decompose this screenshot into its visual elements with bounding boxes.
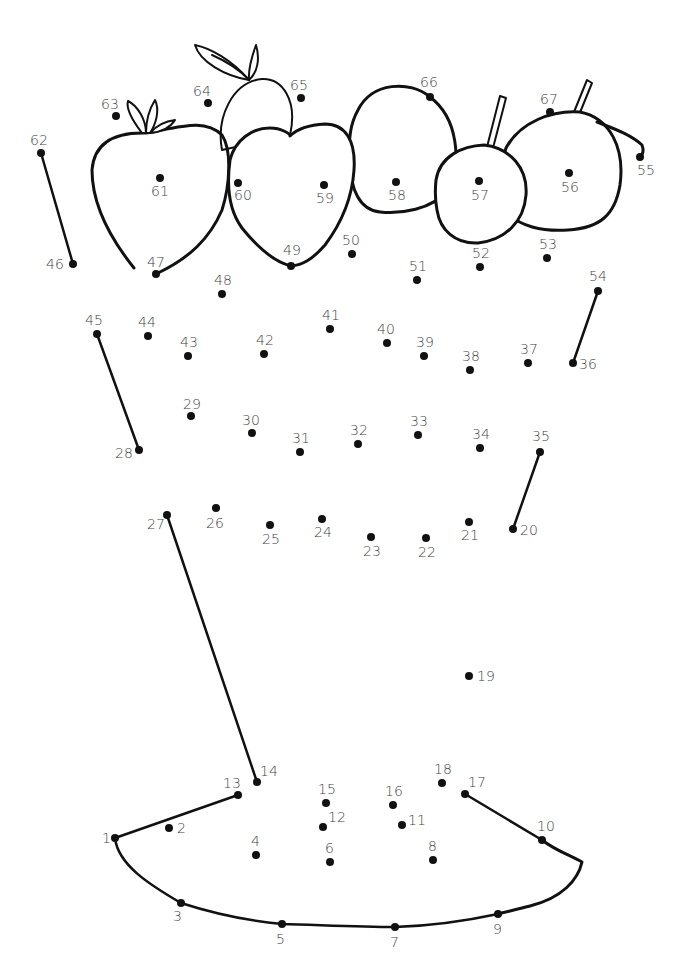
dot-23[interactable]: 23 <box>363 533 381 559</box>
dot-24[interactable]: 24 <box>314 515 332 540</box>
dot-marker[interactable] <box>475 177 483 185</box>
dot-marker[interactable] <box>320 181 328 189</box>
dot-6[interactable]: 6 <box>325 840 334 866</box>
dot-marker[interactable] <box>546 108 554 116</box>
dot-40[interactable]: 40 <box>377 321 395 347</box>
dot-marker[interactable] <box>536 448 544 456</box>
dot-marker[interactable] <box>319 823 327 831</box>
dot-marker[interactable] <box>538 836 546 844</box>
dot-marker[interactable] <box>326 325 334 333</box>
dot-marker[interactable] <box>260 350 268 358</box>
dot-4[interactable]: 4 <box>251 833 260 859</box>
dot-marker[interactable] <box>392 178 400 186</box>
dot-44[interactable]: 44 <box>138 314 156 340</box>
dot-43[interactable]: 43 <box>180 334 198 360</box>
dot-9[interactable]: 9 <box>493 910 502 937</box>
dot-50[interactable]: 50 <box>342 232 360 258</box>
dot-62[interactable]: 62 <box>30 132 48 157</box>
dot-marker[interactable] <box>565 169 573 177</box>
dot-38[interactable]: 38 <box>462 348 480 374</box>
dot-marker[interactable] <box>466 366 474 374</box>
dot-15[interactable]: 15 <box>318 781 336 807</box>
dot-11[interactable]: 11 <box>398 812 426 829</box>
dot-marker[interactable] <box>594 287 602 295</box>
dot-marker[interactable] <box>348 250 356 258</box>
dot-22[interactable]: 22 <box>418 534 436 560</box>
dot-marker[interactable] <box>204 99 212 107</box>
dot-marker[interactable] <box>253 778 261 786</box>
dot-marker[interactable] <box>234 179 242 187</box>
dot-28[interactable]: 28 <box>115 445 143 461</box>
dot-marker[interactable] <box>152 270 160 278</box>
dot-marker[interactable] <box>187 412 195 420</box>
dot-19[interactable]: 19 <box>465 668 495 684</box>
dot-marker[interactable] <box>296 448 304 456</box>
dot-30[interactable]: 30 <box>242 412 260 437</box>
dot-marker[interactable] <box>287 262 295 270</box>
dot-48[interactable]: 48 <box>214 272 232 298</box>
dot-marker[interactable] <box>135 446 143 454</box>
dot-54[interactable]: 54 <box>589 268 607 295</box>
dot-marker[interactable] <box>318 515 326 523</box>
dot-31[interactable]: 31 <box>292 430 310 456</box>
dot-45[interactable]: 45 <box>85 312 103 338</box>
dot-marker[interactable] <box>367 533 375 541</box>
dot-marker[interactable] <box>476 444 484 452</box>
dot-marker[interactable] <box>389 801 397 809</box>
dot-marker[interactable] <box>465 518 473 526</box>
dot-12[interactable]: 12 <box>319 809 346 831</box>
dot-27[interactable]: 27 <box>147 511 171 532</box>
dot-10[interactable]: 10 <box>537 818 555 844</box>
dot-marker[interactable] <box>156 174 164 182</box>
dot-marker[interactable] <box>509 525 517 533</box>
dot-marker[interactable] <box>422 534 430 542</box>
dot-marker[interactable] <box>426 93 434 101</box>
dot-marker[interactable] <box>461 790 469 798</box>
dot-marker[interactable] <box>322 799 330 807</box>
dot-25[interactable]: 25 <box>262 521 280 547</box>
dot-14[interactable]: 14 <box>253 763 278 786</box>
dot-17[interactable]: 17 <box>461 774 486 798</box>
dot-35[interactable]: 35 <box>532 428 550 456</box>
dot-marker[interactable] <box>414 431 422 439</box>
dot-marker[interactable] <box>248 429 256 437</box>
dot-63[interactable]: 63 <box>101 96 120 120</box>
dot-marker[interactable] <box>252 851 260 859</box>
dot-marker[interactable] <box>112 112 120 120</box>
dot-7[interactable]: 7 <box>390 923 399 950</box>
dot-marker[interactable] <box>398 821 406 829</box>
dot-marker[interactable] <box>69 260 77 268</box>
dot-marker[interactable] <box>524 359 532 367</box>
dot-marker[interactable] <box>111 834 119 842</box>
dot-marker[interactable] <box>278 920 286 928</box>
dot-21[interactable]: 21 <box>461 518 479 543</box>
dot-16[interactable]: 16 <box>385 783 403 809</box>
dot-29[interactable]: 29 <box>183 396 201 420</box>
dot-marker[interactable] <box>218 290 226 298</box>
dot-marker[interactable] <box>165 824 173 832</box>
dot-marker[interactable] <box>184 352 192 360</box>
dot-marker[interactable] <box>465 672 473 680</box>
dot-marker[interactable] <box>383 339 391 347</box>
dot-55[interactable]: 55 <box>636 153 655 178</box>
dot-18[interactable]: 18 <box>434 761 452 787</box>
dot-marker[interactable] <box>569 359 577 367</box>
dot-36[interactable]: 36 <box>569 356 597 372</box>
dot-marker[interactable] <box>212 504 220 512</box>
dot-marker[interactable] <box>37 149 45 157</box>
dot-51[interactable]: 51 <box>409 258 427 284</box>
dot-marker[interactable] <box>93 330 101 338</box>
dot-marker[interactable] <box>420 352 428 360</box>
dot-2[interactable]: 2 <box>165 820 186 836</box>
dot-61[interactable]: 61 <box>151 174 169 199</box>
dot-53[interactable]: 53 <box>539 236 557 262</box>
dot-marker[interactable] <box>636 153 644 161</box>
dot-8[interactable]: 8 <box>428 838 437 864</box>
dot-marker[interactable] <box>354 440 362 448</box>
dot-marker[interactable] <box>391 923 399 931</box>
dot-13[interactable]: 13 <box>223 775 242 799</box>
dot-47[interactable]: 47 <box>147 254 165 278</box>
dot-marker[interactable] <box>413 276 421 284</box>
dot-marker[interactable] <box>144 332 152 340</box>
dot-65[interactable]: 65 <box>290 77 308 102</box>
